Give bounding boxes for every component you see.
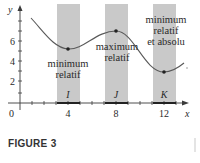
y-tick-label: 4 [10,56,15,67]
point-min-relative [66,47,70,51]
annotation-min-relative-line1: minimum [48,58,89,69]
interval-label-j: J [114,89,119,100]
point-min-absolute [162,70,166,74]
annotation-min-absolute-line3: et absolu [147,36,185,47]
x-tick-label: 8 [114,108,119,119]
annotation-max-relative-line1: maximum [96,41,139,52]
x-axis-arrow-icon [182,101,189,106]
x-axis-label: x [184,108,190,119]
annotation-max-relative-line2: relatif [104,52,130,63]
x-tick-label: 12 [159,108,169,119]
y-tick-label: 6 [10,36,15,47]
y-tick-label: 2 [10,76,15,87]
interval-label-i: I [65,89,70,100]
y-axis-arrow-icon [18,5,23,11]
annotation-min-absolute-line1: minimum [146,14,187,25]
x-tick-label: 4 [66,108,71,119]
interval-label-k: K [160,89,169,100]
point-max-relative [114,29,118,33]
annotation-min-relative-line2: relatif [55,69,81,80]
annotation-min-absolute-line2: relatif [153,25,179,36]
figure-caption: FIGURE 3 [8,138,57,149]
y-axis-label: y [7,4,13,15]
origin-label: 0 [9,108,14,119]
